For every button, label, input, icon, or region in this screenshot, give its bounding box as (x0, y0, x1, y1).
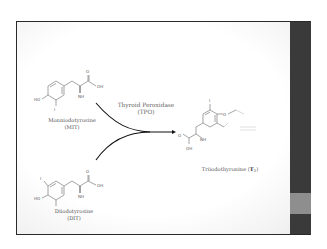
mit-ho-label: HO (34, 97, 40, 102)
dit-name-text: Diiodotyrosine (42, 208, 106, 215)
t3-structure (183, 104, 256, 144)
dit-i1-label: I (40, 176, 41, 181)
dit-abbr: (DIT) (42, 215, 106, 222)
mit-name-text: Monniodotyrosine (40, 117, 104, 124)
t3-name-text: Triiodothyronine ( (202, 166, 250, 172)
reaction-arrow-from-dit (96, 132, 150, 160)
dit-o-label: O (86, 169, 89, 174)
mit-o-label: O (86, 69, 89, 74)
dit-nh2-label: NH (78, 194, 84, 199)
t3-oh-label: OH (186, 146, 192, 151)
enzyme-name: Thyroid Peroxidase (106, 102, 186, 109)
enzyme-abbr: (TPO) (106, 109, 186, 116)
t3-nh2-label: NH (200, 137, 206, 142)
mit-name: Monniodotyrosine (MIT) (40, 117, 104, 131)
mit-oh-label: OH (97, 84, 103, 89)
dit-structure (42, 175, 96, 206)
dit-ho-label: HO (34, 196, 40, 201)
mit-i-label: I (54, 107, 55, 112)
t3-o-label: O (223, 112, 226, 117)
mit-structure (42, 75, 96, 106)
dit-oh-label: OH (97, 183, 103, 188)
mit-nh2-label: NH (78, 94, 84, 99)
arrow-head (172, 130, 176, 134)
t3-o2-label: O (178, 133, 181, 138)
t3-name: Triiodothyronine (T3) (190, 166, 270, 174)
mit-abbr: (MIT) (40, 124, 104, 131)
dit-name: Diiodotyrosine (DIT) (42, 208, 106, 222)
t3-i-label: I (209, 98, 210, 103)
t3-close-paren: ) (256, 166, 258, 172)
enzyme-label: Thyroid Peroxidase (TPO) (106, 102, 186, 116)
